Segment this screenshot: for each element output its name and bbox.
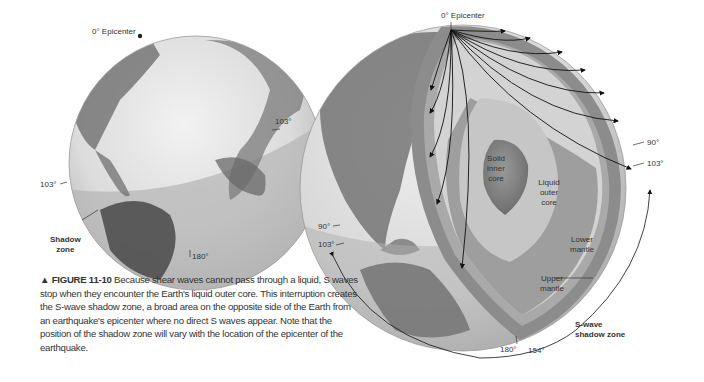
left-103-left-label: 103° <box>40 180 57 190</box>
right-90-left-label: 90° <box>318 222 330 232</box>
left-180-label: 180° <box>192 252 209 262</box>
caption-text: Because shear waves cannot pass through … <box>40 274 358 353</box>
right-180-label: 180° <box>500 345 517 355</box>
right-154-label: 154° <box>528 346 545 356</box>
right-epicenter-label: 0° Epicenter <box>441 11 485 21</box>
right-103-label: 103° <box>647 159 664 169</box>
left-epicenter-dot <box>138 34 142 38</box>
figure-label: FIGURE 11-10 <box>52 274 112 285</box>
s-wave-shadow-zone-label: S-wave shadow zone <box>575 320 625 340</box>
lower-mantle-label: Lower mantle <box>560 235 604 255</box>
liquid-outer-core-label: Liquid outer core <box>528 178 570 208</box>
caption-marker-icon: ▲ <box>40 274 49 285</box>
left-epicenter-label: 0° Epicenter <box>92 27 136 37</box>
left-shadow-zone-label: Shadow zone <box>50 235 81 255</box>
upper-mantle-label: Upper mantle <box>530 274 574 294</box>
right-103-left-label: 103° <box>318 240 335 250</box>
left-103-right-label: 103° <box>275 117 292 127</box>
solid-inner-core-label: Solid inner core <box>475 154 517 184</box>
right-90-label: 90° <box>647 138 659 148</box>
figure-caption: ▲ FIGURE 11-10 Because shear waves canno… <box>40 273 362 354</box>
